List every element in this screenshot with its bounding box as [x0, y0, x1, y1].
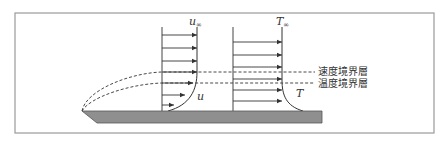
label-velocity-boundary-layer: 速度境界層	[318, 65, 368, 77]
flat-plate	[82, 111, 322, 123]
label-thermal-boundary-layer: 温度境界層	[318, 77, 368, 89]
label-u: u	[197, 90, 204, 103]
boundary-layer-diagram: u∞ u T∞ T 速度境界層 温度境界層	[0, 0, 447, 141]
